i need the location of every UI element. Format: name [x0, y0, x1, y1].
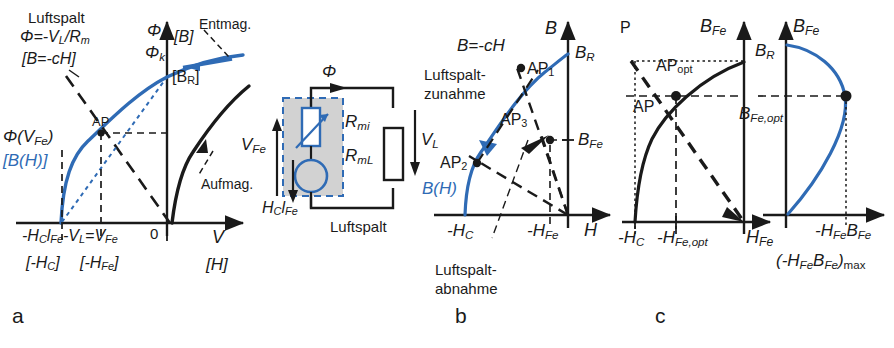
pc4: Fe	[712, 24, 726, 38]
pb11: -H	[447, 221, 465, 240]
panel-a-flux-equation-tail: /R	[65, 28, 81, 45]
panel-a-phi-vfe-tail: )	[48, 127, 54, 146]
panel-a-bracket-hfe: [-HFe]	[80, 255, 118, 272]
panel-a-luftspalt-leader	[69, 70, 79, 77]
panel-a-phi-axis-label: Φ	[147, 22, 161, 39]
panel-c-left-y-axis-label: BFe	[700, 17, 726, 37]
panel-a-ap-marker	[97, 129, 104, 136]
panel-b-minus-hfe-label: -HFe	[527, 222, 558, 241]
pc2: opt	[677, 63, 692, 75]
panel-a-x-axis-bracket: [H]	[206, 256, 228, 273]
circuit-vfe-label: VFe	[241, 136, 266, 155]
pd11: (-H	[776, 251, 800, 270]
panel-a-bracket-br-head: [B	[172, 68, 187, 85]
figure-root: Luftspalt Φ=-VL/Rm [B=-cH] Entmag. Aufma…	[0, 0, 894, 348]
pb9: B	[578, 130, 589, 149]
panel-b-x-axis-label: H	[584, 221, 597, 239]
panel-a-aufmag-label: Aufmag.	[201, 177, 253, 191]
panel-label-b: b	[455, 305, 467, 326]
xc1: [-H	[80, 254, 101, 271]
panel-b-ap3-marker	[546, 136, 554, 144]
panel-b-loadline-ap3	[540, 131, 568, 215]
panel-a-entmag-label: Entmag.	[199, 17, 251, 31]
panel-a-flux-equation-head: Φ=-V	[20, 28, 59, 45]
panel-a-flux-equation-sub-m: m	[81, 34, 90, 46]
panel-c-p-label: P	[620, 20, 631, 36]
pc7: -H	[618, 228, 636, 247]
panel-a-x-tick-label-main: -HClFe-VL=VFe	[22, 228, 118, 245]
panel-c-right-br-label: BR	[755, 42, 775, 61]
panel-a-dotted-line-lower	[62, 77, 167, 222]
panel-a-phik-head: Φ	[145, 43, 159, 62]
panel-a-bracket-b: [B]	[174, 29, 194, 45]
panel-b-ap3-label: AP3	[500, 112, 527, 129]
panel-a-ap-label: AP	[92, 115, 109, 128]
circuit-flux-arrow	[330, 83, 347, 93]
panel-c-left-p-line	[631, 61, 744, 222]
xa7: =V	[85, 227, 105, 244]
pd14: Fe	[824, 259, 837, 271]
panel-a-phi-vfe-head: Φ(V	[3, 127, 34, 146]
pd13: B	[813, 251, 824, 270]
pd16: max	[844, 259, 866, 271]
circuit-vfe-arrow-head	[272, 118, 282, 131]
xb1: [-H	[26, 254, 47, 271]
panel-a-phik-label: Φk	[145, 44, 165, 63]
panel-a-flux-equation: Φ=-VL/Rm	[20, 29, 90, 46]
pb4: 2	[461, 160, 467, 172]
panel-a-luftspalt-label: Luftspalt	[28, 10, 85, 25]
panel-b-minus-hc-label: -HC	[447, 222, 473, 241]
cr2: mi	[357, 120, 369, 132]
panel-b-zunahme-line1: Luftspalt-	[424, 67, 486, 82]
pd8: Fe	[833, 229, 846, 241]
panel-a-phi-vfe: Φ(VFe)	[3, 128, 53, 147]
pd9: B	[846, 221, 857, 240]
xa1: -H	[22, 227, 39, 244]
panel-c-right-x-axis-label: -HFeBFe	[815, 222, 871, 241]
pd1: B	[793, 16, 805, 36]
panel-a-bracket-hc: [-HC]	[26, 255, 60, 272]
panel-label-a: a	[12, 305, 24, 326]
panel-b-ap2-marker	[473, 159, 481, 167]
pd12: Fe	[800, 259, 813, 271]
pc5: H	[746, 227, 759, 247]
xc2: Fe	[101, 260, 114, 272]
panel-c-apopt-label: APopt	[656, 58, 692, 75]
pc3: B	[700, 16, 712, 36]
panel-b-bfe-label: BFe	[578, 131, 603, 150]
circuit-vl-arrow-head	[410, 162, 420, 176]
panel-b-y-axis-label: B	[545, 19, 557, 37]
xb3: ]	[55, 254, 59, 271]
pd5: B	[739, 104, 750, 123]
panel-c-left-apopt-marker	[671, 91, 681, 101]
cr1: R	[345, 112, 357, 131]
panel-c-left-x-axis-label: HFe	[746, 228, 773, 248]
pb3: AP	[440, 154, 461, 171]
cv1: V	[241, 135, 252, 154]
pc9: -H	[657, 228, 675, 247]
xa4: Fe	[50, 233, 63, 245]
pc1: AP	[656, 57, 677, 74]
panel-c-right-max-marker	[841, 91, 852, 102]
circuit-rml-label: RmL	[345, 147, 373, 166]
panel-b-bh-label: B(H)	[422, 180, 457, 197]
panel-c-right-y-axis-label: BFe	[793, 17, 819, 37]
pb10: Fe	[589, 138, 602, 150]
circuit-phi-label: Φ	[322, 63, 336, 80]
panel-b-thin-dash-extension	[492, 140, 528, 238]
pb5: AP	[500, 111, 521, 128]
xb2: C	[47, 260, 55, 272]
panel-a-x-axis-label: V	[212, 228, 224, 246]
panel-c-ap-label: AP	[633, 99, 654, 115]
cr3: R	[345, 146, 357, 165]
pd7: -H	[815, 221, 833, 240]
pb7: B	[575, 43, 586, 62]
panel-c-right-energy-curve	[787, 45, 846, 214]
panel-a-entmag-leader	[204, 30, 229, 57]
pc8: C	[636, 236, 644, 248]
panel-b-ap1-label: AP1	[527, 61, 554, 78]
panel-label-c: c	[655, 305, 666, 326]
panel-b-br-label: BR	[575, 44, 595, 63]
circuit-rmi-label: Rmi	[345, 113, 369, 132]
panel-b-zunahme-line2: zunahme	[424, 86, 486, 101]
